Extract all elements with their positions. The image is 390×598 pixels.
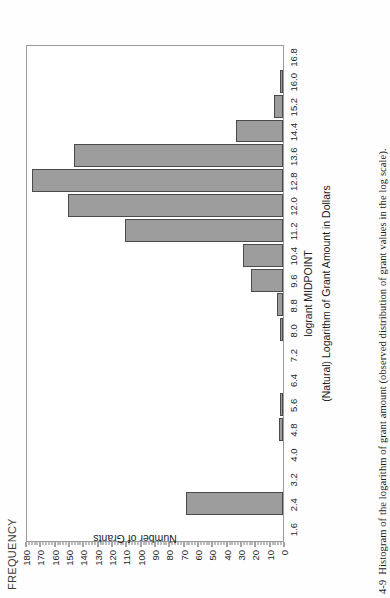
x-tick-label: 10.4 (288, 247, 299, 266)
bar (243, 244, 283, 267)
x-tick-label: 8.0 (288, 324, 299, 337)
x-tick-label: 16.8 (288, 48, 299, 67)
bar (277, 294, 283, 317)
bar (186, 492, 283, 515)
y-tick-label: 10 (264, 550, 275, 561)
y-tick-label: 70 (178, 550, 189, 561)
y-tick-label: 130 (92, 550, 103, 566)
y-tick-minor (275, 542, 276, 545)
x-tick-label: 5.6 (288, 399, 299, 412)
y-tick-label: 100 (135, 550, 146, 566)
x-tick-label: 15.2 (288, 98, 299, 117)
y-tick-label: 20 (250, 550, 261, 561)
bar (236, 120, 283, 143)
y-tick-major (284, 542, 285, 547)
bar (32, 169, 283, 192)
x-tick-label: 8.8 (288, 299, 299, 312)
x-tick-label: 4.0 (288, 448, 299, 461)
figure-number: 4-9 (377, 580, 388, 594)
y-tick-label: 40 (221, 550, 232, 561)
x-tick-label: 13.6 (288, 148, 299, 167)
bar (274, 95, 283, 118)
x-tick-label: 2.4 (288, 498, 299, 511)
x-tick-label: 1.6 (288, 523, 299, 536)
y-tick-minor (281, 542, 282, 545)
y-tick-label: 0 (279, 550, 290, 555)
y-tick-label: 150 (64, 550, 75, 566)
x-tick-label: 7.2 (288, 349, 299, 362)
x-tick-label: 3.2 (288, 473, 299, 486)
y-tick-label: 120 (107, 550, 118, 566)
bar (280, 318, 283, 341)
plot-frame (26, 45, 284, 542)
x-tick-label: 4.8 (288, 424, 299, 437)
figure-stage: FREQUENCY 180170160150140130120110100908… (0, 0, 390, 598)
x-axis-title: logrant MIDPOINT (302, 45, 314, 542)
y-tick-label: 90 (150, 550, 161, 561)
x-tick-label: 11.2 (288, 222, 299, 240)
figure-caption-text: Histogram of the logarithm of grant amou… (377, 148, 388, 574)
x-tick-label: 9.6 (288, 274, 299, 287)
bar (125, 219, 283, 242)
y-tick-minor (266, 542, 267, 545)
y-tick-label: 180 (21, 550, 32, 566)
y-tick-label: 170 (35, 550, 46, 566)
frequency-header: FREQUENCY (6, 518, 18, 590)
x-tick-label: 12.0 (288, 197, 299, 216)
x-axis-subtitle: (Natural) Logarithm of Grant Amount in D… (320, 45, 332, 542)
bar (251, 269, 283, 292)
bar (280, 393, 283, 416)
y-tick-label: 80 (164, 550, 175, 561)
y-axis-title: Number of Grants (6, 533, 264, 545)
histogram-figure: FREQUENCY 180170160150140130120110100908… (0, 0, 348, 598)
y-tick-label: 60 (193, 550, 204, 561)
y-tick-minor (278, 542, 279, 545)
y-tick-major (269, 542, 270, 547)
bar (74, 144, 283, 167)
x-tick-label: 16.0 (288, 73, 299, 92)
bar (280, 70, 283, 93)
bar-series (27, 46, 283, 541)
y-tick-label: 160 (49, 550, 60, 566)
y-tick-label: 110 (121, 550, 132, 565)
x-tick-label: 12.8 (288, 172, 299, 191)
y-tick-label: 140 (78, 550, 89, 566)
bar (68, 194, 283, 217)
x-tick-label: 6.4 (288, 374, 299, 387)
bar (279, 418, 283, 441)
y-tick-label: 30 (236, 550, 247, 561)
y-tick-label: 50 (207, 550, 218, 561)
figure-caption: 4-9Histogram of the logarithm of grant a… (377, 4, 388, 594)
y-tick-minor (272, 542, 273, 545)
x-tick-label: 14.4 (288, 123, 299, 142)
